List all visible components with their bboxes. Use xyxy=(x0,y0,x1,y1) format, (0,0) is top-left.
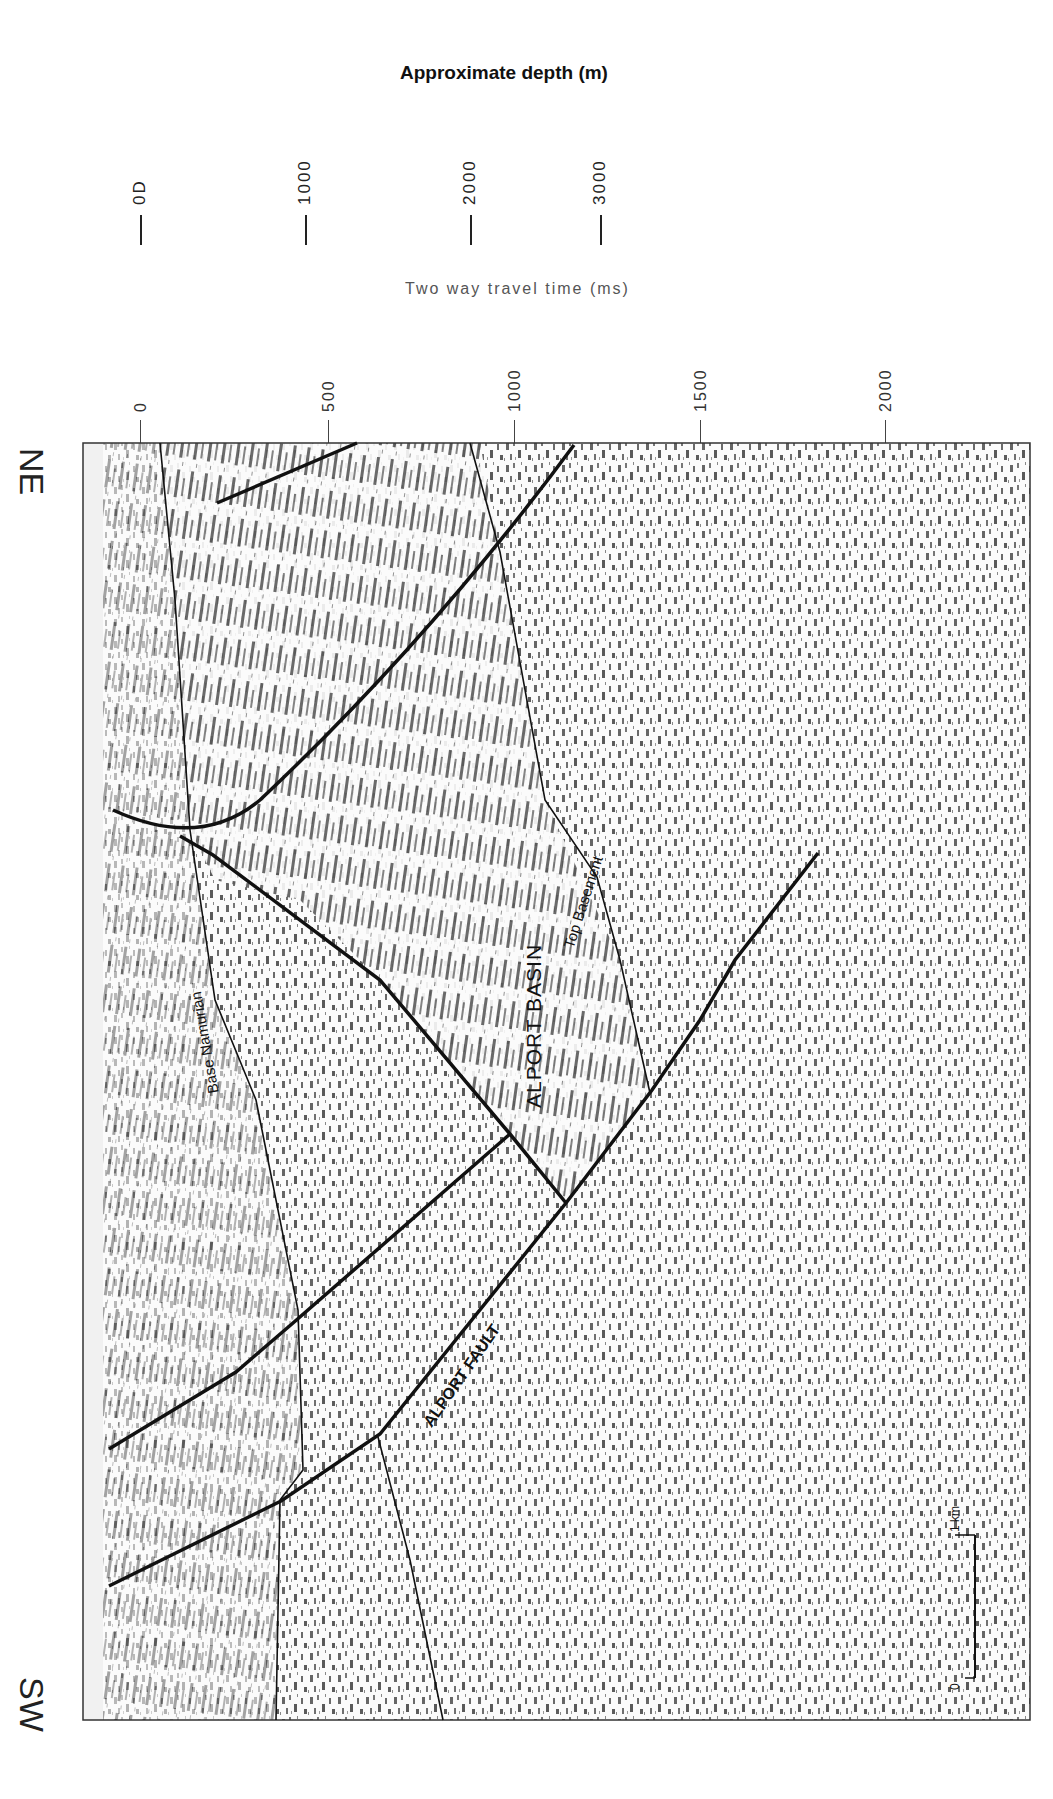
label-alport-basin: ALPORT BASIN xyxy=(522,944,546,1108)
seismic-section xyxy=(0,0,1053,1799)
scale-bar-start-label: 0 xyxy=(948,1683,962,1690)
scale-bar-end-label: 1 km xyxy=(948,1506,962,1532)
